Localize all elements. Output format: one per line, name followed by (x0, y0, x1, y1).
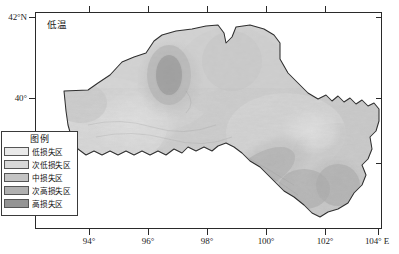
legend-label-high-loss: 高损失区 (32, 198, 63, 209)
lat-tick-40 (29, 98, 35, 99)
lat-tick-right-42 (376, 17, 382, 18)
lon-tick-104 (378, 229, 379, 235)
legend-swatch-high-loss (4, 199, 29, 208)
legend-label-mid-loss: 中损失区 (32, 172, 63, 183)
map-legend: 图例 低损失区 次低损失区 中损失区 次高损失区 高损失区 (1, 131, 78, 216)
legend-label-low-loss: 低损失区 (32, 146, 63, 157)
lat-tick-42 (29, 17, 35, 18)
legend-title: 图例 (2, 134, 77, 145)
map-graphic (36, 13, 381, 228)
lat-label-40: 40° (0, 93, 27, 103)
lon-tick-top-98 (207, 6, 208, 12)
map-figure: 低温 42°N 40° 38° 94° 96° 98° 100° 102° 10… (0, 0, 399, 254)
legend-item-sub-low-loss[interactable]: 次低损失区 (3, 158, 77, 171)
lon-label-100: 100° (246, 236, 286, 246)
lat-tick-right-40 (376, 98, 382, 99)
lon-label-104: 104° E (356, 236, 398, 246)
legend-item-mid-loss[interactable]: 中损失区 (3, 171, 77, 184)
lon-tick-100 (266, 229, 267, 235)
lon-label-102: 102° (305, 236, 345, 246)
legend-swatch-low-loss (4, 147, 29, 156)
lat-label-42: 42°N (0, 12, 27, 22)
map-plot-area (35, 12, 382, 229)
legend-swatch-sub-low-loss (4, 160, 29, 169)
lon-label-94: 94° (69, 236, 109, 246)
legend-item-low-loss[interactable]: 低损失区 (3, 145, 77, 158)
lat-tick-right-38 (376, 163, 382, 164)
legend-swatch-mid-loss (4, 173, 29, 182)
lon-label-96: 96° (128, 236, 168, 246)
map-region-fill (36, 13, 381, 228)
legend-item-high-loss[interactable]: 高损失区 (3, 197, 77, 210)
legend-label-sub-low-loss: 次低损失区 (32, 159, 71, 170)
lon-label-98: 98° (187, 236, 227, 246)
lon-tick-top-100 (266, 6, 267, 12)
lon-tick-top-96 (148, 6, 149, 12)
low-temperature-annotation: 低温 (47, 17, 67, 31)
legend-item-sub-high-loss[interactable]: 次高损失区 (3, 184, 77, 197)
lon-tick-top-94 (89, 6, 90, 12)
lon-tick-98 (207, 229, 208, 235)
legend-swatch-sub-high-loss (4, 186, 29, 195)
lon-tick-94 (89, 229, 90, 235)
legend-label-sub-high-loss: 次高损失区 (32, 185, 71, 196)
lon-tick-102 (325, 229, 326, 235)
lon-tick-96 (148, 229, 149, 235)
lon-tick-top-102 (325, 6, 326, 12)
